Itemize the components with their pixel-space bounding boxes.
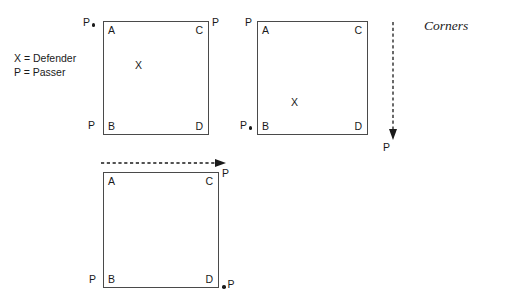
ball-dot-icon (222, 285, 226, 289)
court-2-passer-top-left: P (245, 17, 252, 28)
court-1-corner-d: D (195, 121, 203, 132)
court-3-passer-top-right: P (222, 168, 229, 179)
court-3-passer-bottom-left: P (89, 274, 96, 285)
court-1-passer-top-right: P (212, 17, 219, 28)
legend: X = Defender P = Passer (14, 51, 76, 79)
court-2-passer-arrow-target-label: P (383, 142, 390, 153)
court-2-corner-d: D (354, 121, 362, 132)
court-1-corner-b: B (108, 121, 115, 132)
court-3-corner-b: B (108, 274, 115, 285)
court-2-corner-b: B (262, 121, 269, 132)
legend-item-passer: P = Passer (14, 65, 76, 79)
legend-item-defender: X = Defender (14, 51, 76, 65)
court-1-passer-top-left: P (83, 17, 95, 28)
section-caption: Corners (424, 18, 468, 34)
court-1-passer-bottom-left-label: P (88, 120, 95, 131)
court-3-corner-a: A (108, 176, 115, 187)
court-2-corner-a: A (262, 25, 269, 36)
court-2-passer-bottom-left-label: P (240, 120, 247, 131)
corner-drill-diagram-1: A C B D X (103, 21, 209, 135)
court-3-passer-top-right-label: P (222, 168, 229, 179)
court-3-corner-d: D (205, 274, 213, 285)
court-3-passer-bottom-right: P (222, 279, 235, 290)
court-2-passer-bottom-left: P (240, 120, 252, 131)
corner-drill-diagram-2: A C B D X (257, 21, 368, 135)
movement-arrow-right (100, 156, 228, 170)
court-1-defender-x: X (135, 60, 142, 71)
court-1-corner-c: C (195, 25, 203, 36)
court-1-passer-top-left-label: P (83, 17, 90, 28)
corner-drill-diagram-3: A C B D (103, 172, 219, 288)
court-3-passer-bottom-left-label: P (89, 274, 96, 285)
court-3-passer-bottom-right-label: P (228, 279, 235, 290)
court-2-defender-x: X (291, 97, 298, 108)
ball-dot-icon (92, 23, 96, 27)
ball-dot-icon (249, 126, 253, 130)
court-2-corner-c: C (354, 25, 362, 36)
court-1-passer-top-right-label: P (212, 17, 219, 28)
court-1-passer-bottom-left: P (88, 120, 95, 131)
court-3-corner-c: C (205, 176, 213, 187)
court-2-passer-top-left-label: P (245, 17, 252, 28)
court-1-corner-a: A (108, 25, 115, 36)
movement-arrow-down (386, 20, 400, 142)
diagram-canvas: X = Defender P = Passer Corners A C B D … (0, 0, 515, 302)
court-2-passer-arrow-target: P (383, 142, 390, 153)
